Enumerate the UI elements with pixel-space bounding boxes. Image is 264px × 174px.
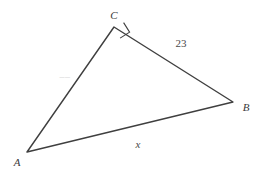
side-label-cb-length: 23 xyxy=(176,37,188,49)
vertex-label-b: B xyxy=(243,101,250,113)
side-label-ab-unknown: x xyxy=(135,138,141,150)
triangle-diagram: A B C 23 –– x xyxy=(0,0,264,174)
vertex-label-c: C xyxy=(110,9,118,21)
triangle-canvas: A B C 23 –– x xyxy=(0,0,264,174)
side-label-ac-length: –– xyxy=(59,71,72,82)
triangle-outline xyxy=(27,27,233,152)
vertex-label-a: A xyxy=(13,156,21,168)
